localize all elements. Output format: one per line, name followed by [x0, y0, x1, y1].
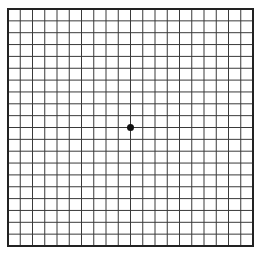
amsler-grid — [0, 0, 261, 253]
fixation-dot — [127, 124, 134, 131]
